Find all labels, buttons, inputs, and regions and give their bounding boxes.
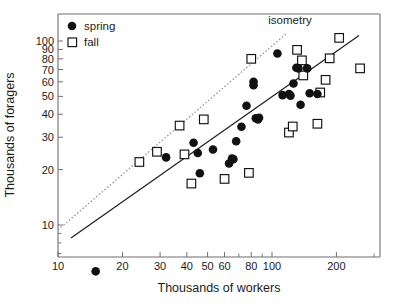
datapoint-spring-5 [209,145,218,154]
datapoint-spring-17 [273,49,282,58]
isometry-annotation: isometry [268,14,312,26]
x-ticklabel-50: 50 [201,260,213,272]
datapoint-fall-11 [293,46,302,55]
datapoint-fall-6 [220,175,229,184]
datapoint-spring-23 [294,64,303,73]
datapoint-spring-1 [162,153,171,162]
y-ticklabel-60: 60 [42,76,54,88]
plot-frame [58,14,380,257]
datapoint-spring-26 [305,89,314,98]
datapoint-spring-25 [303,64,312,73]
x-ticklabel-10: 10 [52,260,64,272]
datapoint-fall-5 [199,115,208,124]
chart-legend: spring fall [68,20,116,48]
datapoint-spring-4 [196,169,205,178]
datapoint-fall-1 [153,147,162,156]
scatter-chart-figure: 102030405060708090100 102030405060801002… [0,0,397,306]
datapoint-spring-13 [249,81,258,90]
x-ticklabel-30: 30 [154,260,166,272]
datapoint-spring-20 [286,91,295,100]
x-ticklabel-40: 40 [181,260,193,272]
datapoint-fall-7 [245,169,254,178]
datapoint-spring-8 [229,155,238,164]
datapoint-spring-16 [255,113,264,122]
datapoint-spring-9 [232,137,241,146]
y-ticklabel-30: 30 [42,131,54,143]
y-axis-ticks: 102030405060708090100 [36,35,63,231]
datapoint-spring-27 [313,90,322,99]
datapoint-fall-17 [325,54,334,63]
datapoint-spring-3 [193,149,202,158]
datapoint-fall-8 [247,55,256,64]
y-ticklabel-100: 100 [36,35,54,47]
y-ticklabel-40: 40 [42,108,54,120]
datapoint-fall-19 [356,64,365,73]
line-regression-fit [71,36,359,238]
datapoint-fall-10 [288,122,297,131]
series-fall-points [135,34,364,188]
x-ticklabel-60: 60 [218,260,230,272]
y-ticklabel-10: 10 [42,219,54,231]
datapoint-fall-12 [298,56,307,65]
datapoint-fall-2 [175,121,184,130]
datapoint-fall-14 [313,119,322,128]
datapoint-spring-24 [296,101,305,110]
legend-marker-spring [68,22,77,31]
datapoint-fall-4 [187,179,196,188]
legend-marker-fall [68,38,77,47]
y-ticklabel-50: 50 [42,90,54,102]
datapoint-spring-2 [189,138,198,147]
x-ticklabel-200: 200 [327,260,345,272]
datapoint-fall-16 [321,76,330,85]
legend-label-spring: spring [84,20,115,32]
chart-svg: 102030405060708090100 102030405060801002… [0,0,397,306]
x-ticklabel-100: 100 [263,260,281,272]
y-ticklabel-20: 20 [42,164,54,176]
datapoint-spring-21 [289,79,298,88]
datapoint-spring-11 [242,101,251,110]
y-axis-label: Thousands of foragers [3,72,17,197]
datapoint-fall-0 [135,158,144,167]
reference-lines [58,33,359,238]
datapoint-spring-10 [237,122,246,131]
datapoint-spring-0 [91,267,100,276]
datapoint-fall-3 [180,150,189,159]
x-ticklabel-20: 20 [116,260,128,272]
y-ticklabel-70: 70 [42,64,54,76]
legend-label-fall: fall [84,36,99,48]
series-spring-points [91,49,321,275]
x-axis-label: Thousands of workers [158,281,281,295]
datapoint-fall-18 [335,34,344,43]
x-ticklabel-80: 80 [245,260,257,272]
